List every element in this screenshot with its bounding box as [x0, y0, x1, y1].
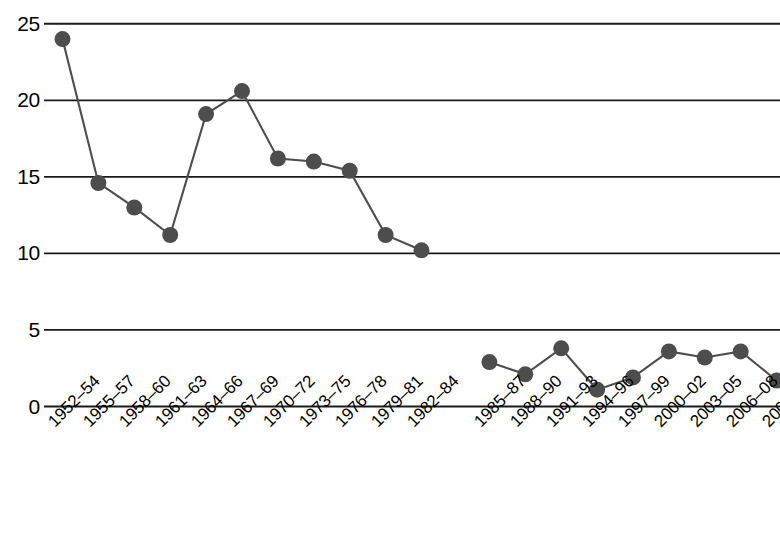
data-point-marker	[162, 227, 178, 243]
data-point-marker	[553, 340, 569, 356]
y-axis-tick: 10	[0, 242, 40, 263]
data-point-marker	[234, 83, 250, 99]
data-point-marker	[306, 154, 322, 170]
data-point-marker	[55, 31, 71, 47]
y-axis-tick-label: 10	[17, 242, 40, 263]
data-point-marker	[270, 150, 286, 166]
data-point-marker	[126, 199, 142, 215]
data-point-marker	[378, 227, 394, 243]
data-point-marker	[661, 343, 677, 359]
y-axis-tick-label: 5	[29, 319, 40, 340]
chart-legend: Maternal death rates from anesthesia for…	[0, 498, 780, 552]
data-point-marker	[414, 242, 430, 258]
series-lines-group	[63, 39, 777, 390]
y-axis-tick: 20	[0, 89, 40, 110]
y-axis-tick-label: 15	[17, 166, 40, 187]
y-axis-tick-label: 25	[17, 13, 40, 34]
y-axis-tick: 15	[0, 166, 40, 187]
data-point-marker	[697, 350, 713, 366]
y-axis-tick-label: 20	[17, 89, 40, 110]
data-point-marker	[342, 163, 358, 179]
y-axis-tick: 25	[0, 13, 40, 34]
data-point-marker	[481, 354, 497, 370]
series-markers-group	[55, 31, 780, 398]
data-point-marker	[733, 343, 749, 359]
x-axis-tick-labels: 1952–541955–571958–601961–631964–661967–…	[0, 412, 780, 502]
chart-root: 0510152025 1952–541955–571958–601961–631…	[0, 0, 780, 552]
y-axis-tick: 5	[0, 319, 40, 340]
series-line	[63, 39, 422, 250]
data-point-marker	[90, 175, 106, 191]
data-point-marker	[198, 106, 214, 122]
